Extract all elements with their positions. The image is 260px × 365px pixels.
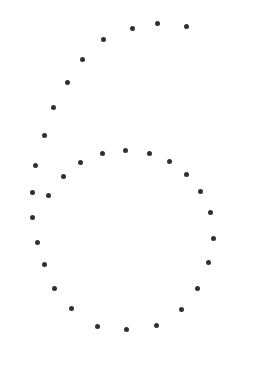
dot-marker [69,306,74,311]
dot-marker [147,151,152,156]
dot-marker [65,80,70,85]
dot-marker [208,210,213,215]
dot-pattern-canvas [0,0,260,365]
dot-marker [179,307,184,312]
dot-marker [167,159,172,164]
dot-marker [155,21,160,26]
dot-marker [42,133,47,138]
dot-marker [130,26,135,31]
dot-marker [42,262,47,267]
dot-marker [195,286,200,291]
dot-marker [80,57,85,62]
dot-marker [124,327,129,332]
dot-marker [33,163,38,168]
dot-marker [198,189,203,194]
dot-marker [35,240,40,245]
dot-marker [123,148,128,153]
dot-marker [30,215,35,220]
dot-marker [61,174,66,179]
dot-marker [100,151,105,156]
dot-marker [46,193,51,198]
dot-marker [206,260,211,265]
dot-marker [184,24,189,29]
dot-marker [78,160,83,165]
dot-marker [154,323,159,328]
dot-marker [30,190,35,195]
dot-marker [51,105,56,110]
dot-marker [101,37,106,42]
dot-marker [95,324,100,329]
dot-marker [184,172,189,177]
dot-marker [52,286,57,291]
dot-marker [211,236,216,241]
